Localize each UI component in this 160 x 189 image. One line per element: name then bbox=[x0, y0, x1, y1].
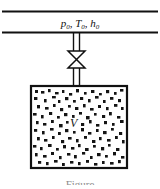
pipe-upper bbox=[74, 33, 80, 52]
supply-enthalpy-subscript: 0 bbox=[96, 23, 100, 31]
figure-caption: Figure bbox=[0, 179, 160, 185]
supply-enthalpy-symbol: , h bbox=[85, 17, 96, 29]
supply-temp-symbol: , T bbox=[70, 17, 82, 29]
tank-volume-label: V bbox=[70, 117, 77, 129]
figure-container: p0, T0, h0 V Figure bbox=[0, 0, 160, 189]
valve-icon bbox=[68, 51, 85, 68]
supply-line-label: p0, T0, h0 bbox=[0, 17, 160, 34]
pipe-lower bbox=[74, 68, 80, 87]
